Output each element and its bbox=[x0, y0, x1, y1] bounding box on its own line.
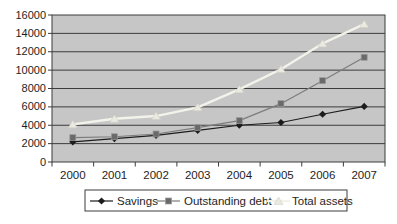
x-axis-label: 2006 bbox=[310, 169, 336, 181]
x-axis-label: 2002 bbox=[143, 169, 169, 181]
y-axis-label: 12000 bbox=[15, 45, 46, 57]
series-marker-outstanding-debt bbox=[320, 78, 326, 84]
legend-label: Total assets bbox=[292, 195, 353, 207]
y-axis-label: 4000 bbox=[22, 119, 46, 131]
x-axis-label: 2005 bbox=[268, 169, 294, 181]
series-marker-outstanding-debt bbox=[361, 54, 367, 60]
series-marker-outstanding-debt bbox=[70, 135, 76, 141]
series-marker-outstanding-debt bbox=[236, 118, 242, 124]
y-axis-label: 0 bbox=[40, 156, 46, 168]
series-marker-outstanding-debt bbox=[111, 134, 117, 140]
series-marker-outstanding-debt bbox=[195, 125, 201, 131]
y-axis-label: 14000 bbox=[15, 27, 46, 39]
y-axis-label: 10000 bbox=[15, 64, 46, 76]
line-chart: 0200040006000800010000120001400016000200… bbox=[0, 0, 397, 224]
x-axis-label: 2004 bbox=[227, 169, 253, 181]
x-axis-label: 2007 bbox=[351, 169, 377, 181]
legend-label: Savings bbox=[117, 195, 158, 207]
x-axis-label: 2003 bbox=[185, 169, 211, 181]
chart-page: 0200040006000800010000120001400016000200… bbox=[0, 0, 397, 224]
y-axis-label: 2000 bbox=[22, 137, 46, 149]
x-axis-label: 2001 bbox=[102, 169, 128, 181]
y-axis-label: 16000 bbox=[15, 9, 46, 21]
legend-marker bbox=[166, 198, 172, 204]
series-marker-outstanding-debt bbox=[278, 101, 284, 107]
x-axis-label: 2000 bbox=[60, 169, 86, 181]
y-axis-label: 6000 bbox=[22, 100, 46, 112]
y-axis-label: 8000 bbox=[22, 82, 46, 94]
series-marker-outstanding-debt bbox=[153, 131, 159, 137]
legend-label: Outstanding debt bbox=[184, 195, 272, 207]
